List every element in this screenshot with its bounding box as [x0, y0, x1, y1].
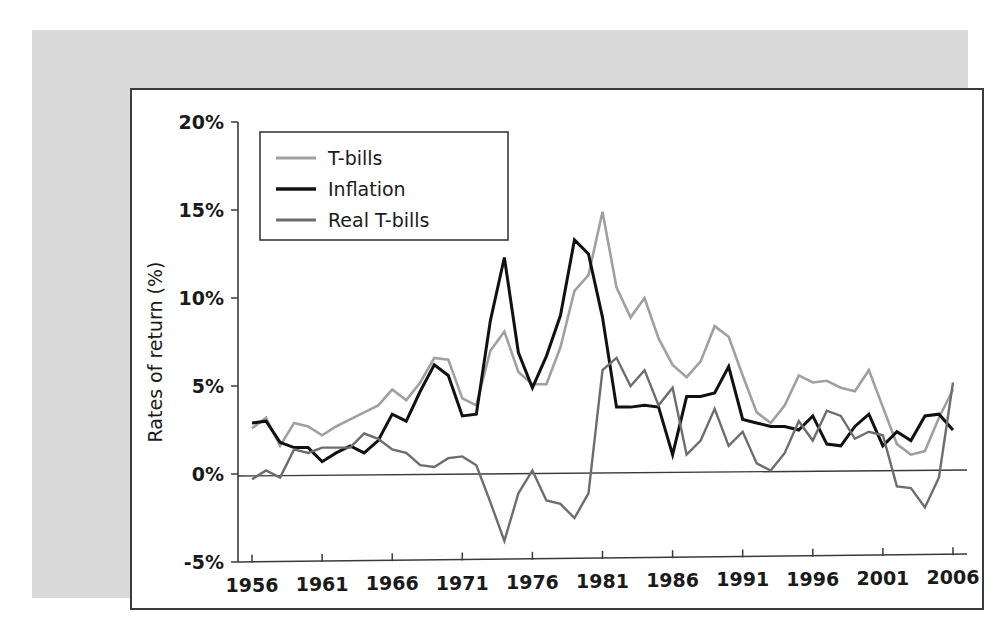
y-tick-label: 5% [192, 375, 224, 397]
rates-of-return-line-chart: Rates of return (%) 20%15%10%5%0%-5% 195… [132, 90, 982, 608]
x-tick-label: 1986 [646, 569, 699, 591]
x-tick-label: 1961 [296, 573, 349, 595]
y-axis-title: Rates of return (%) [144, 262, 166, 443]
legend-label-inflation: Inflation [328, 178, 406, 200]
x-tick-label: 1966 [366, 572, 419, 594]
x-tick-label: 2006 [927, 566, 980, 588]
y-tick-label: 15% [179, 199, 224, 221]
y-axis-ticks: 20%15%10%5%0%-5% [179, 111, 238, 573]
y-tick-label: 10% [179, 287, 224, 309]
chart-legend: T-billsInflationReal T-bills [260, 132, 508, 240]
y-tick-label: 20% [179, 111, 224, 133]
zero-reference-line [238, 470, 967, 476]
legend-label-t-bills: T-bills [327, 147, 383, 169]
x-tick-label: 1981 [576, 570, 629, 592]
y-tick-label: 0% [192, 463, 224, 485]
data-series-group [252, 212, 953, 541]
page-background: Rates of return (%) 20%15%10%5%0%-5% 195… [0, 0, 1000, 623]
x-tick-label: 1971 [436, 572, 489, 594]
y-axis-title-text: Rates of return (%) [144, 262, 166, 443]
x-tick-label: 1976 [506, 571, 559, 593]
chart-figure-frame: Rates of return (%) 20%15%10%5%0%-5% 195… [130, 88, 984, 610]
y-tick-label: -5% [184, 551, 224, 573]
figure-mat: Rates of return (%) 20%15%10%5%0%-5% 195… [32, 30, 968, 598]
x-tick-label: 1991 [716, 568, 769, 590]
x-tick-label: 1996 [786, 568, 839, 590]
x-tick-label: 2001 [856, 567, 909, 589]
legend-label-real-t-bills: Real T-bills [328, 209, 430, 231]
series-line-t-bills [252, 212, 953, 455]
x-tick-label: 1956 [226, 574, 279, 596]
